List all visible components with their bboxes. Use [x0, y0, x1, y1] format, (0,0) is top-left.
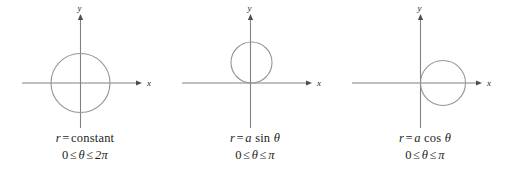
equation-relation: =	[404, 131, 414, 145]
domain-relation-2: ≤	[85, 148, 95, 162]
equation-angle: θ	[445, 131, 451, 145]
domain-upper: π	[438, 148, 444, 162]
axes-group-2	[182, 14, 312, 128]
caption-3: r=a cos θ 0≤θ≤π	[340, 130, 510, 165]
equation-expression: constant	[71, 131, 114, 145]
y-axis-label: y	[77, 3, 82, 13]
equation-coefficient: a	[414, 131, 420, 145]
equation-relation: =	[235, 131, 245, 145]
domain-lower: 0	[62, 148, 68, 162]
plot-area-1: x y	[0, 0, 170, 132]
domain-lower: 0	[235, 148, 241, 162]
domain-angle: θ	[79, 148, 85, 162]
domain-line-3: 0≤θ≤π	[340, 147, 510, 164]
panel-circle-tangent-y-axis: x y r=a cos θ 0≤θ≤π	[340, 0, 510, 178]
x-axis-label: x	[146, 78, 151, 88]
domain-upper: 2π	[95, 148, 108, 162]
equation-coefficient: a	[245, 131, 251, 145]
caption-1: r=constant 0≤θ≤2π	[0, 130, 170, 165]
equation-line-3: r=a cos θ	[340, 130, 510, 147]
y-axis-label: y	[417, 3, 422, 13]
plot-area-3: x y	[340, 0, 510, 132]
domain-relation-1: ≤	[69, 148, 79, 162]
domain-relation-2: ≤	[258, 148, 268, 162]
x-axis-label: x	[486, 78, 491, 88]
domain-lower: 0	[405, 148, 411, 162]
y-axis-label: y	[247, 3, 252, 13]
polar-circles-figure: x y r=constant 0≤θ≤2π x y	[0, 0, 510, 178]
x-axis-arrowhead	[136, 80, 142, 85]
y-axis-arrowhead	[418, 14, 423, 20]
domain-relation-2: ≤	[428, 148, 438, 162]
domain-relation-1: ≤	[412, 148, 422, 162]
equation-relation: =	[61, 131, 71, 145]
axes-group-1	[22, 14, 142, 128]
y-axis-arrowhead	[78, 14, 83, 20]
domain-line-2: 0≤θ≤π	[170, 147, 340, 164]
domain-upper: π	[268, 148, 274, 162]
equation-line-2: r=a sin θ	[170, 130, 340, 147]
equation-line-1: r=constant	[0, 130, 170, 147]
caption-2: r=a sin θ 0≤θ≤π	[170, 130, 340, 165]
equation-function: cos	[424, 131, 441, 145]
x-axis-arrowhead	[306, 80, 312, 85]
x-axis-label: x	[316, 78, 321, 88]
panel-circle-centered-origin: x y r=constant 0≤θ≤2π	[0, 0, 170, 178]
panel-circle-tangent-x-axis: x y r=a sin θ 0≤θ≤π	[170, 0, 340, 178]
y-axis-arrowhead	[248, 14, 253, 20]
domain-relation-1: ≤	[242, 148, 252, 162]
domain-line-1: 0≤θ≤2π	[0, 147, 170, 164]
equation-function: sin	[255, 131, 270, 145]
plot-area-2: x y	[170, 0, 340, 132]
polar-curve-circle	[231, 42, 272, 83]
x-axis-arrowhead	[476, 80, 482, 85]
equation-angle: θ	[274, 131, 280, 145]
